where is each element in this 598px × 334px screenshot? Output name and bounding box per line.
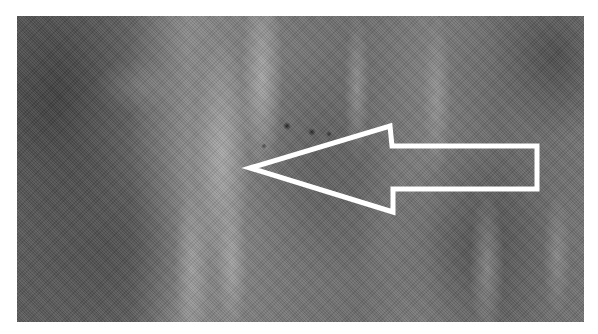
annotation-arrow [250, 126, 537, 212]
arrow-left-outline-icon [0, 0, 598, 334]
